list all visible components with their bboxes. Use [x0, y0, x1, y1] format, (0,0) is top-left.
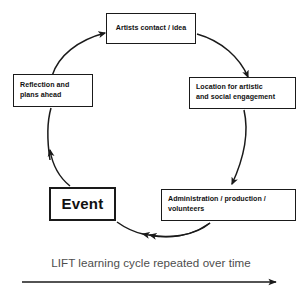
node-location-label: Location for artistic and social engagem… — [196, 83, 275, 103]
lift-learning-cycle-diagram: Artists contact / idea Location for arti… — [0, 0, 302, 303]
arrow-location-to-admin — [232, 110, 246, 184]
node-admin-label: Administration / production / volunteers — [168, 195, 266, 215]
arrow-artists-to-location — [197, 34, 248, 77]
node-event-label: Event — [62, 194, 104, 215]
node-reflection-label: Reflection and plans ahead — [20, 81, 69, 101]
node-location-engagement: Location for artistic and social engagem… — [189, 77, 296, 109]
arrow-admin-to-event — [117, 222, 210, 237]
arrow-reflection-to-artists — [52, 33, 105, 76]
caption-text: LIFT learning cycle repeated over time — [51, 256, 251, 269]
node-event: Event — [49, 187, 116, 221]
arrow-event-to-reflection-head — [50, 150, 70, 186]
caption-row: LIFT learning cycle repeated over time — [0, 253, 302, 271]
node-artists-contact: Artists contact / idea — [106, 13, 196, 44]
node-artists-label: Artists contact / idea — [116, 24, 186, 34]
node-reflection-plans: Reflection and plans ahead — [13, 74, 93, 107]
node-administration-production: Administration / production / volunteers — [161, 189, 296, 221]
